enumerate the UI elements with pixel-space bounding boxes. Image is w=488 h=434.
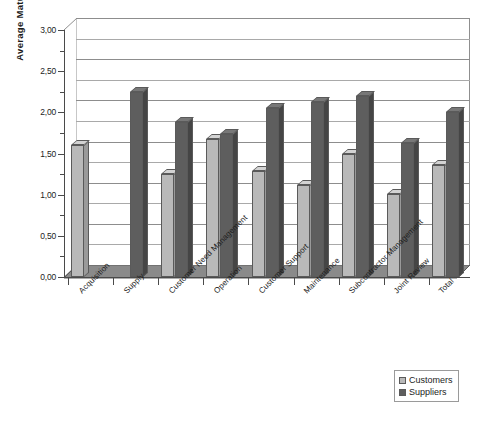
y-axis-line xyxy=(64,30,65,278)
bar-front-face xyxy=(266,108,279,277)
y-axis-tick xyxy=(58,71,64,72)
gridline xyxy=(76,59,470,60)
bar-customers xyxy=(432,165,445,277)
y-axis-tick xyxy=(58,154,64,155)
bar-suppliers xyxy=(220,134,233,277)
y-axis-tick xyxy=(60,174,64,175)
bar-front-face xyxy=(175,122,188,277)
bar-customers xyxy=(342,154,355,277)
x-axis-tick xyxy=(429,278,430,285)
legend-item-label: Customers xyxy=(409,374,453,386)
bar-suppliers xyxy=(446,112,459,277)
bar-suppliers xyxy=(266,108,279,277)
y-axis-tick xyxy=(60,133,64,134)
y-axis-tick xyxy=(60,215,64,216)
bar-suppliers xyxy=(175,122,188,277)
y-axis-tick xyxy=(58,30,64,31)
bar-front-face xyxy=(252,171,265,277)
x-axis-tick xyxy=(294,278,295,285)
x-axis-tick xyxy=(158,278,159,285)
bar-front-face xyxy=(387,194,400,277)
x-axis-tick xyxy=(339,278,340,285)
legend-item[interactable]: Suppliers xyxy=(399,386,453,398)
legend-item-label: Suppliers xyxy=(409,386,447,398)
y-axis-tick xyxy=(60,256,64,257)
bar-side-face xyxy=(279,104,284,277)
bar-side-face xyxy=(143,87,148,277)
legend-swatch-icon xyxy=(399,377,406,384)
bar-suppliers xyxy=(130,92,143,277)
bar-side-face xyxy=(233,129,238,277)
plot-area: 0,000,501,001,502,002,503,00 Acquisition… xyxy=(0,0,488,434)
bar-front-face xyxy=(130,92,143,277)
bar-side-face xyxy=(84,141,89,277)
y-axis-tick-label: 2,00 xyxy=(22,107,56,117)
bar-side-face xyxy=(459,108,464,277)
y-axis-tick xyxy=(58,236,64,237)
bar-front-face xyxy=(356,96,369,277)
bar-side-face xyxy=(188,118,193,277)
bar-customers xyxy=(252,171,265,277)
bar-front-face xyxy=(161,174,174,277)
bar-front-face xyxy=(432,165,445,277)
bar-customers xyxy=(71,145,84,277)
x-axis-tick xyxy=(384,278,385,285)
bar-front-face xyxy=(220,134,233,277)
y-axis-tick xyxy=(60,51,64,52)
bar-side-face xyxy=(369,91,374,277)
x-axis-tick xyxy=(68,278,69,285)
bar-front-face xyxy=(297,185,310,277)
bar-customers xyxy=(161,174,174,277)
bar-customers xyxy=(387,194,400,277)
bar-suppliers xyxy=(311,102,324,277)
y-axis-tick-label: 0,00 xyxy=(22,272,56,282)
bar-front-face xyxy=(71,145,84,277)
bar-front-face xyxy=(401,143,414,277)
bar-suppliers xyxy=(401,143,414,277)
legend-swatch-icon xyxy=(399,389,406,396)
y-axis-tick xyxy=(60,92,64,93)
y-axis-labels: 0,000,501,001,502,002,503,00 xyxy=(16,0,56,300)
bar-front-face xyxy=(311,102,324,277)
legend-item[interactable]: Customers xyxy=(399,374,453,386)
y-axis-tick xyxy=(58,195,64,196)
bar-side-face xyxy=(414,138,419,277)
chart-legend: CustomersSuppliers xyxy=(394,370,459,402)
x-axis-tick xyxy=(203,278,204,285)
y-axis-tick-label: 3,00 xyxy=(22,25,56,35)
gridline xyxy=(76,80,470,81)
bar-front-face xyxy=(342,154,355,277)
x-axis-tick xyxy=(248,278,249,285)
x-axis-category-label: Total xyxy=(437,277,456,296)
bar-suppliers xyxy=(356,96,369,277)
y-axis-tick-label: 2,50 xyxy=(22,66,56,76)
gridline xyxy=(76,39,470,40)
y-axis-tick xyxy=(58,112,64,113)
bar-side-face xyxy=(324,97,329,277)
y-axis-tick-label: 0,50 xyxy=(22,231,56,241)
bar-customers xyxy=(297,185,310,277)
x-axis-tick xyxy=(113,278,114,285)
bar-chart: Average Maturity 0,000,501,001,502,002,5… xyxy=(0,0,488,434)
bar-front-face xyxy=(446,112,459,277)
y-axis-tick-label: 1,50 xyxy=(22,149,56,159)
gridline xyxy=(76,18,470,19)
y-axis-tick-label: 1,00 xyxy=(22,190,56,200)
